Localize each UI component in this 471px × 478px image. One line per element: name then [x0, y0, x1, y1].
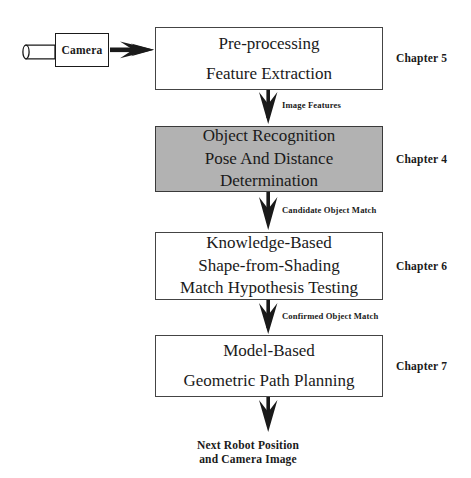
flowchart-canvas: Camera Pre-processing Feature Extraction… [0, 0, 471, 478]
arrow-object-recognition-to-knowledge-based [259, 192, 277, 230]
arrow-preprocessing-to-object-recognition [259, 90, 277, 124]
edge-label-confirmed-object-match: Confirmed Object Match [282, 311, 378, 321]
chapter-label-7: Chapter 7 [396, 360, 447, 372]
box-line: Feature Extraction [206, 59, 332, 89]
process-box-object-recognition[interactable]: Object Recognition Pose And Distance Det… [155, 126, 383, 192]
arrow-camera-to-preprocessing [110, 42, 154, 59]
box-line: Object Recognition [203, 125, 336, 148]
arrow-knowledge-based-to-model-based [259, 300, 277, 334]
camera-label: Camera [62, 44, 103, 56]
output-text: Next Robot Position and Camera Image [188, 438, 308, 467]
chapter-label-4: Chapter 4 [396, 153, 447, 165]
box-line: Geometric Path Planning [184, 366, 355, 396]
output-line-2: and Camera Image [188, 452, 308, 466]
box-line: Model-Based [223, 336, 315, 366]
process-box-knowledge-based[interactable]: Knowledge-Based Shape-from-Shading Match… [155, 232, 383, 300]
edge-label-image-features: Image Features [282, 100, 341, 110]
box-line: Determination [220, 170, 318, 193]
process-box-preprocessing[interactable]: Pre-processing Feature Extraction [155, 27, 383, 90]
box-line: Match Hypothesis Testing [180, 277, 358, 300]
camera-node: Camera [55, 33, 109, 67]
box-line: Pre-processing [218, 29, 319, 59]
camera-lens-icon [22, 44, 56, 60]
arrow-model-based-to-output [259, 397, 277, 432]
edge-label-candidate-object-match: Candidate Object Match [282, 205, 376, 215]
output-line-1: Next Robot Position [188, 438, 308, 452]
process-box-model-based[interactable]: Model-Based Geometric Path Planning [155, 335, 383, 397]
box-line: Knowledge-Based [206, 232, 332, 255]
chapter-label-6: Chapter 6 [396, 260, 447, 272]
chapter-label-5: Chapter 5 [396, 52, 447, 64]
box-line: Pose And Distance [205, 148, 333, 171]
box-line: Shape-from-Shading [198, 255, 340, 278]
